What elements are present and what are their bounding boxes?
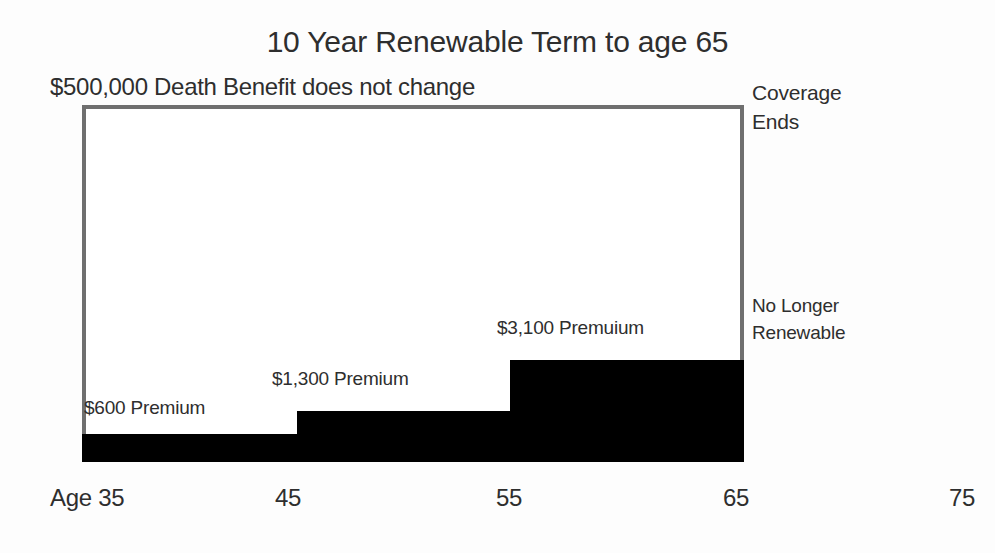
premium-label-45: $1,300 Premium <box>272 368 409 390</box>
premium-label-55: $3,100 Premuium <box>497 317 644 339</box>
bar-segment-45-55 <box>297 411 512 462</box>
x-axis-tick-45: 45 <box>275 484 301 512</box>
x-axis-tick-65: 65 <box>723 484 749 512</box>
no-longer-renewable-line2: Renewable <box>752 319 845 346</box>
death-benefit-subtitle: $500,000 Death Benefit does not change <box>50 73 475 101</box>
x-axis-tick-55: 55 <box>496 484 522 512</box>
bar-segment-55-65 <box>510 360 744 462</box>
coverage-ends-line2: Ends <box>752 107 841 136</box>
x-axis: Age 35 45 55 65 75 <box>0 484 995 529</box>
premium-label-35: $600 Premium <box>84 397 205 419</box>
chart-title: 10 Year Renewable Term to age 65 <box>0 25 995 59</box>
x-axis-tick-75: 75 <box>949 484 975 512</box>
coverage-ends-line1: Coverage <box>752 78 841 107</box>
no-longer-renewable-line1: No Longer <box>752 292 845 319</box>
coverage-ends-note: Coverage Ends <box>752 78 841 136</box>
no-longer-renewable-note: No Longer Renewable <box>752 292 845 346</box>
x-axis-tick-35: Age 35 <box>50 484 124 512</box>
bar-segment-35-45 <box>82 434 299 462</box>
slide-canvas: 10 Year Renewable Term to age 65 $500,00… <box>0 0 995 553</box>
